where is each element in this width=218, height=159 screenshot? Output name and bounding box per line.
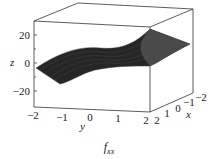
surface (36, 29, 190, 84)
x-tick-neg2: −2 (195, 91, 207, 103)
y-tick-neg1: −1 (56, 111, 68, 123)
y-axis-label: y (79, 120, 85, 132)
z-tick-0: 0 (25, 57, 31, 69)
z-axis-label: z (9, 56, 15, 68)
figure-caption: fxx (0, 140, 218, 156)
x-axis-label: x (185, 108, 191, 120)
caption-subscript: xx (107, 147, 114, 156)
y-tick-neg2: −2 (27, 109, 39, 121)
z-tick-20: 20 (19, 29, 31, 41)
z-tick-neg20: −20 (13, 85, 31, 97)
y-tick-1: 1 (115, 112, 121, 124)
surface-plot: 20 0 −20 z −2 −1 0 1 2 y 2 1 0 −1 −2 x (0, 0, 218, 159)
y-tick-2: 2 (143, 114, 149, 126)
x-tick-neg1: −1 (183, 96, 195, 108)
x-tick-1: 1 (164, 107, 170, 119)
z-axis-ticks (34, 35, 37, 91)
x-tick-2: 2 (154, 114, 160, 126)
y-tick-0: 0 (87, 111, 93, 123)
x-tick-0: 0 (175, 102, 181, 114)
